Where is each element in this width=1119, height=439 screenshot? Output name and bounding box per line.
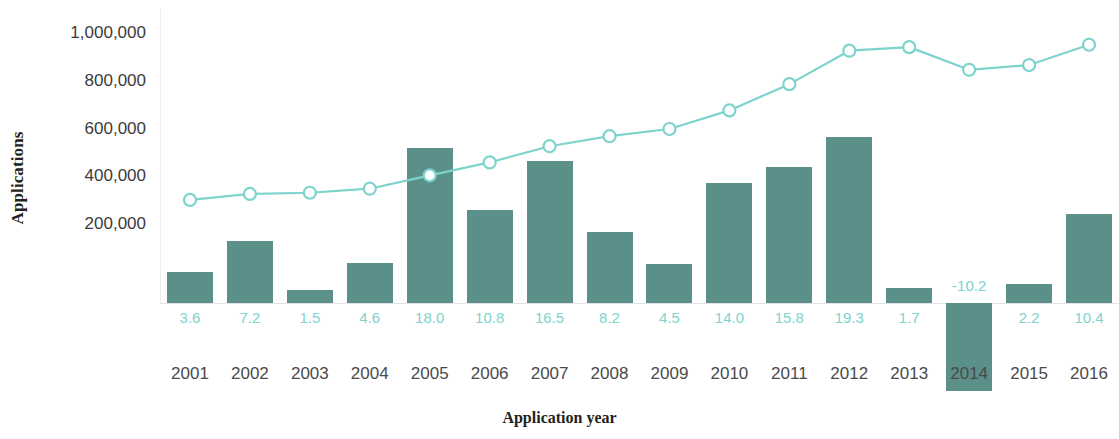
- bar[interactable]: [287, 290, 333, 303]
- y-axis-tick-label: 200,000: [36, 214, 146, 234]
- x-axis-tick-label: 2009: [651, 364, 689, 384]
- x-axis-tick-label: 2004: [351, 364, 389, 384]
- bar-value-label: 14.0: [715, 309, 744, 326]
- bar-value-label: 19.3: [835, 309, 864, 326]
- x-axis-tick-label: 2008: [591, 364, 629, 384]
- bar-value-label: 18.0: [415, 309, 444, 326]
- x-axis-tick-label: 2010: [710, 364, 748, 384]
- y-axis-tick-label: 800,000: [36, 71, 146, 91]
- bar[interactable]: [527, 161, 573, 303]
- x-axis-tick-label: 2002: [231, 364, 269, 384]
- bar-columns: 3.620017.220021.520034.6200418.0200510.8…: [160, 0, 1119, 439]
- bar-value-label: -10.2: [952, 277, 986, 294]
- bar[interactable]: [706, 183, 752, 303]
- combo-chart: Applications 200,000400,000600,000800,00…: [0, 0, 1119, 439]
- x-axis-tick-label: 2007: [531, 364, 569, 384]
- bar-value-label: 8.2: [599, 309, 620, 326]
- bar-value-label: 10.4: [1074, 309, 1103, 326]
- bar-value-label: 4.6: [359, 309, 380, 326]
- chart-column: 16.52007: [520, 0, 580, 439]
- chart-column: 4.52009: [640, 0, 700, 439]
- x-axis-tick-label: 2005: [411, 364, 449, 384]
- bar[interactable]: [886, 288, 932, 303]
- chart-column: 14.02010: [699, 0, 759, 439]
- x-axis-tick-label: 2015: [1010, 364, 1048, 384]
- bar[interactable]: [407, 148, 453, 303]
- bar-value-label: 15.8: [775, 309, 804, 326]
- bar[interactable]: [1006, 284, 1052, 303]
- plot-area: 3.620017.220021.520034.6200418.0200510.8…: [160, 0, 1119, 439]
- x-axis-tick-label: 2012: [830, 364, 868, 384]
- y-axis-tick-label: 400,000: [36, 166, 146, 186]
- chart-column: -10.22014: [939, 0, 999, 439]
- chart-column: 10.42016: [1059, 0, 1119, 439]
- x-axis-tick-label: 2016: [1070, 364, 1108, 384]
- chart-column: 3.62001: [160, 0, 220, 439]
- chart-column: 1.52003: [280, 0, 340, 439]
- bar[interactable]: [646, 264, 692, 303]
- bar[interactable]: [227, 241, 273, 303]
- bar-value-label: 1.5: [299, 309, 320, 326]
- x-axis-tick-label: 2006: [471, 364, 509, 384]
- chart-column: 18.02005: [400, 0, 460, 439]
- x-axis-tick-label: 2013: [890, 364, 928, 384]
- x-axis-tick-label: 2001: [171, 364, 209, 384]
- bar-value-label: 16.5: [535, 309, 564, 326]
- x-axis-tick-label: 2014: [950, 364, 988, 384]
- chart-column: 2.22015: [999, 0, 1059, 439]
- chart-column: 4.62004: [340, 0, 400, 439]
- bar-value-label: 7.2: [239, 309, 260, 326]
- bar[interactable]: [467, 210, 513, 303]
- chart-column: 7.22002: [220, 0, 280, 439]
- y-axis-tick-label: 600,000: [36, 119, 146, 139]
- bar-value-label: 1.7: [899, 309, 920, 326]
- y-axis-title: Applications: [8, 98, 28, 258]
- chart-column: 19.32012: [819, 0, 879, 439]
- x-axis-tick-label: 2011: [771, 364, 808, 384]
- bar[interactable]: [347, 263, 393, 303]
- bar-value-label: 2.2: [1019, 309, 1040, 326]
- chart-column: 8.22008: [580, 0, 640, 439]
- bar[interactable]: [826, 137, 872, 303]
- bar[interactable]: [1066, 214, 1112, 303]
- chart-column: 15.82011: [759, 0, 819, 439]
- bar-value-label: 3.6: [180, 309, 201, 326]
- x-axis-title: Application year: [0, 409, 1119, 427]
- chart-column: 10.82006: [460, 0, 520, 439]
- chart-column: 1.72013: [879, 0, 939, 439]
- y-axis-tick-label: 1,000,000: [36, 23, 146, 43]
- bar-value-label: 4.5: [659, 309, 680, 326]
- y-axis-tick-labels: 200,000400,000600,000800,0001,000,000: [28, 0, 146, 439]
- bar[interactable]: [766, 167, 812, 303]
- bar-value-label: 10.8: [475, 309, 504, 326]
- bar[interactable]: [167, 272, 213, 303]
- bar[interactable]: [587, 232, 633, 303]
- x-axis-tick-label: 2003: [291, 364, 329, 384]
